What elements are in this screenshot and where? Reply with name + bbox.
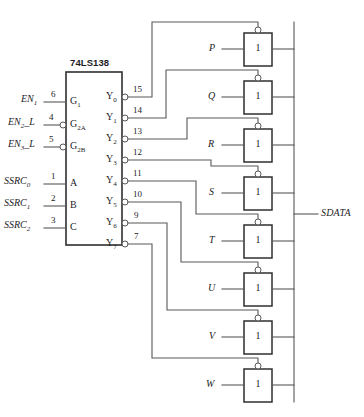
port-label-a: A bbox=[70, 178, 77, 188]
port-subscript: 2B bbox=[77, 146, 85, 154]
pin-number-y0: 15 bbox=[133, 85, 142, 94]
pin-number-y4: 11 bbox=[133, 169, 142, 178]
net-y1-to-buffer-q-enable bbox=[128, 70, 258, 118]
buffer-input-label-v: V bbox=[209, 331, 215, 341]
port-subscript: 1 bbox=[77, 101, 81, 109]
enable-bubble-t bbox=[255, 219, 261, 225]
signal-subscript: 1 bbox=[27, 203, 31, 211]
buffer-symbol-u: 1 bbox=[244, 283, 272, 293]
signal-label-en1: EN1 bbox=[21, 94, 37, 107]
input-bubble-g2a bbox=[60, 122, 66, 128]
net-y5-to-buffer-u-enable bbox=[128, 202, 258, 270]
port-label-c: C bbox=[70, 222, 77, 232]
signal-label-en2: EN2_L bbox=[8, 117, 35, 130]
buffer-input-label-p: P bbox=[209, 43, 215, 53]
pin-number-y5: 10 bbox=[133, 190, 142, 199]
port-label-y7: Y7 bbox=[106, 238, 117, 251]
pin-number-ssrc2: 3 bbox=[51, 216, 56, 225]
signal-label-ssrc0: SSRC0 bbox=[4, 176, 30, 189]
signal-label-ssrc2: SSRC2 bbox=[4, 220, 30, 233]
schematic-canvas: 74LS138 EN1 EN2_L EN3_L SSRC0 SSRC1 SSRC… bbox=[0, 0, 364, 417]
net-y2-to-buffer-r-enable bbox=[128, 118, 258, 139]
signal-suffix: _L bbox=[24, 138, 35, 149]
net-y6-to-buffer-v-enable bbox=[128, 223, 258, 318]
signal-suffix: _L bbox=[24, 116, 35, 127]
port-label-g2b: G2B bbox=[70, 141, 85, 154]
buffer-symbol-s: 1 bbox=[244, 187, 272, 197]
output-bubble-y5 bbox=[122, 199, 128, 205]
pin-number-y7: 7 bbox=[134, 232, 139, 241]
port-label-y6: Y6 bbox=[106, 217, 117, 230]
buffer-input-label-r: R bbox=[208, 139, 214, 149]
schematic-vector-layer bbox=[0, 0, 364, 417]
port-label-y2: Y2 bbox=[106, 133, 117, 146]
buffer-input-label-w: W bbox=[206, 379, 214, 389]
pin-number-en1: 6 bbox=[51, 90, 56, 99]
port-label-b: B bbox=[70, 200, 77, 210]
buffer-symbol-w: 1 bbox=[244, 379, 272, 389]
signal-subscript: 2 bbox=[27, 225, 31, 233]
buffer-input-label-s: S bbox=[209, 187, 214, 197]
output-bubble-y3 bbox=[122, 157, 128, 163]
pin-number-ssrc0: 1 bbox=[51, 172, 56, 181]
port-subscript: 1 bbox=[113, 117, 117, 125]
output-bubble-y2 bbox=[122, 136, 128, 142]
signal-subscript: 0 bbox=[27, 181, 31, 189]
enable-bubble-q bbox=[255, 75, 261, 81]
port-subscript: 3 bbox=[113, 159, 117, 167]
enable-bubble-r bbox=[255, 123, 261, 129]
net-y0-to-buffer-p-enable bbox=[128, 22, 258, 97]
sdata-bus-label: SDATA bbox=[321, 208, 351, 218]
enable-bubble-u bbox=[255, 267, 261, 273]
net-y3-to-buffer-s-enable bbox=[128, 160, 258, 174]
signal-text: SSRC bbox=[4, 219, 27, 230]
buffer-input-label-t: T bbox=[209, 235, 215, 245]
port-subscript: 0 bbox=[113, 96, 117, 104]
pin-number-y3: 12 bbox=[133, 148, 142, 157]
port-subscript: 5 bbox=[113, 201, 117, 209]
buffer-symbol-v: 1 bbox=[244, 331, 272, 341]
output-bubble-y0 bbox=[122, 94, 128, 100]
port-subscript: 7 bbox=[113, 243, 117, 251]
port-label-y0: Y0 bbox=[106, 91, 117, 104]
port-label-y3: Y3 bbox=[106, 154, 117, 167]
pin-number-en2: 4 bbox=[49, 113, 54, 122]
chip-part-number: 74LS138 bbox=[70, 58, 109, 68]
port-label-g2a: G2A bbox=[70, 119, 86, 132]
input-bubble-g2b bbox=[60, 144, 66, 150]
signal-text: EN bbox=[21, 93, 34, 104]
port-subscript: 2 bbox=[113, 138, 117, 146]
signal-text: SSRC bbox=[4, 175, 27, 186]
enable-bubble-p bbox=[255, 27, 261, 33]
signal-label-en3: EN3_L bbox=[8, 139, 35, 152]
pin-number-ssrc1: 2 bbox=[51, 194, 56, 203]
port-subscript: 2A bbox=[77, 124, 86, 132]
signal-label-ssrc1: SSRC1 bbox=[4, 198, 30, 211]
signal-text: SSRC bbox=[4, 197, 27, 208]
output-bubble-y4 bbox=[122, 178, 128, 184]
pin-number-y2: 13 bbox=[133, 127, 142, 136]
signal-text: EN bbox=[8, 116, 21, 127]
pin-number-y6: 9 bbox=[134, 211, 139, 220]
signal-text: EN bbox=[8, 138, 21, 149]
port-label-y1: Y1 bbox=[106, 112, 117, 125]
buffer-input-label-q: Q bbox=[208, 91, 215, 101]
enable-bubble-s bbox=[255, 171, 261, 177]
port-label-y4: Y4 bbox=[106, 175, 117, 188]
port-subscript: 6 bbox=[113, 222, 117, 230]
port-subscript: 4 bbox=[113, 180, 117, 188]
signal-subscript: 1 bbox=[34, 99, 38, 107]
output-bubble-y6 bbox=[122, 220, 128, 226]
pin-number-y1: 14 bbox=[133, 106, 142, 115]
buffer-input-label-u: U bbox=[208, 283, 215, 293]
buffer-symbol-p: 1 bbox=[244, 43, 272, 53]
buffer-symbol-r: 1 bbox=[244, 139, 272, 149]
port-label-y5: Y5 bbox=[106, 196, 117, 209]
pin-number-en3: 5 bbox=[49, 135, 54, 144]
buffer-symbol-q: 1 bbox=[244, 91, 272, 101]
buffer-symbol-t: 1 bbox=[244, 235, 272, 245]
enable-bubble-w bbox=[255, 363, 261, 369]
port-label-g1: G1 bbox=[70, 96, 81, 109]
output-bubble-y7 bbox=[122, 241, 128, 247]
enable-bubble-v bbox=[255, 315, 261, 321]
